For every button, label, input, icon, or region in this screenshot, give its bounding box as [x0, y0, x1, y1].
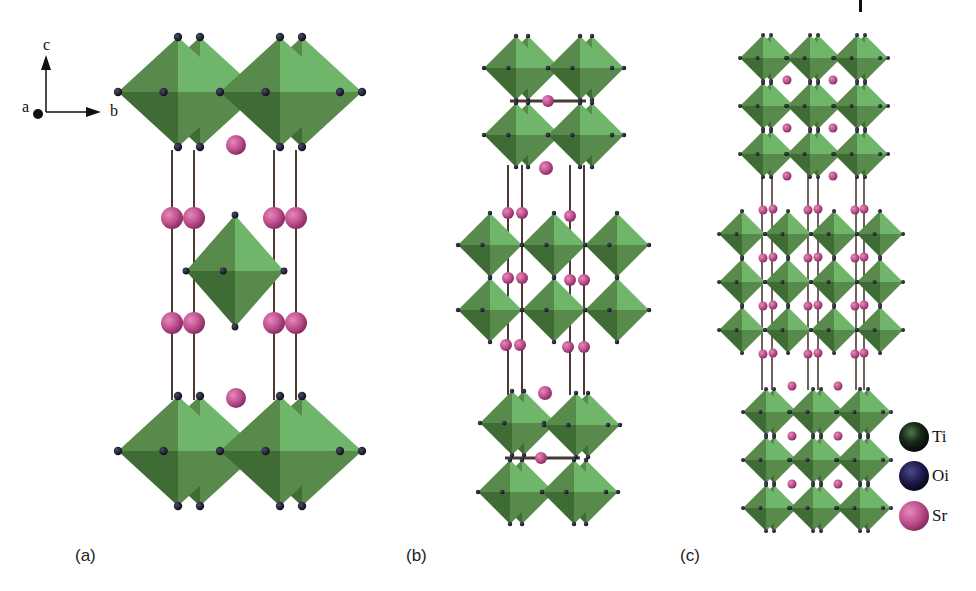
- oxygen-atom: [740, 305, 744, 309]
- sr-atom: [539, 161, 553, 175]
- sr-atom: [769, 301, 778, 310]
- oxygen-atom: [785, 104, 789, 108]
- oxygen-atom: [816, 33, 820, 37]
- tio6-octahedron: [456, 211, 524, 279]
- oxygen-atom: [174, 33, 182, 41]
- oxygen-atom: [780, 328, 784, 332]
- sr-atom: [783, 172, 792, 181]
- oxygen-atom: [758, 410, 762, 414]
- oxygen-atom: [763, 232, 767, 236]
- sr-atom: [829, 172, 838, 181]
- oxygen-atom: [216, 447, 224, 455]
- oxygen-atom: [863, 129, 867, 133]
- c-axis-arrowhead-icon: [41, 55, 51, 70]
- oxygen-atom: [855, 33, 859, 37]
- oxygen-atom: [544, 308, 548, 312]
- sr-atom: [829, 76, 838, 85]
- oxygen-atom: [808, 175, 812, 179]
- oxygen-atom: [358, 447, 366, 455]
- oxygen-atom: [734, 280, 738, 284]
- tio6-octahedron-front: [835, 387, 885, 437]
- oxygen-atom: [183, 268, 190, 275]
- sr-atom: [814, 301, 823, 310]
- tio6-octahedron-front: [835, 435, 885, 485]
- oxygen-atom: [488, 340, 492, 344]
- oxygen-atom: [741, 458, 745, 462]
- oxygen-atom: [769, 129, 773, 133]
- oxygen-atom: [174, 143, 182, 151]
- oxygen-atom: [336, 447, 344, 455]
- oxygen-atom: [872, 280, 876, 284]
- sr-atom: [183, 207, 205, 229]
- oxygen-atom: [849, 104, 853, 108]
- tio6-octahedron: [763, 305, 813, 355]
- oxygen-atom: [480, 243, 484, 247]
- tio6-octahedron: [809, 209, 859, 259]
- tio6-octahedron-front: [832, 33, 882, 83]
- tio6-octahedron: [809, 257, 859, 307]
- oxygen-atom: [114, 88, 122, 96]
- oxygen-atom: [763, 280, 767, 284]
- oxygen-atom: [578, 101, 582, 105]
- panel-a-structure: [114, 33, 366, 510]
- oxygen-atom: [717, 232, 721, 236]
- oxygen-atom: [298, 392, 306, 400]
- oxygen-atom: [786, 257, 790, 261]
- oxygen-atom: [546, 133, 550, 137]
- sr-atom: [851, 302, 860, 311]
- tio6-octahedron-front: [216, 33, 344, 151]
- oxygen-atom: [520, 308, 524, 312]
- oxygen-atom: [780, 232, 784, 236]
- tio6-octahedron-front: [482, 101, 550, 169]
- legend-label-oi: Oi: [932, 466, 949, 486]
- oxygen-atom: [540, 490, 544, 494]
- tio6-octahedron: [763, 209, 813, 259]
- oxygen-atom: [298, 143, 306, 151]
- legend-swatches: [899, 422, 929, 531]
- sr-atom: [500, 339, 512, 351]
- oxygen-atom: [889, 506, 893, 510]
- oxygen-atom: [570, 66, 574, 70]
- tio6-octahedron-front: [738, 81, 788, 131]
- sr-atom: [804, 302, 813, 311]
- oxygen-atom: [832, 56, 836, 60]
- oxygen-atom: [811, 387, 815, 391]
- tio6-octahedron-front: [835, 483, 885, 533]
- oxygen-atom: [889, 458, 893, 462]
- sr-atom: [759, 302, 768, 311]
- oxygen-atom: [216, 88, 224, 96]
- oxygen-atom: [616, 490, 620, 494]
- oxygen-atom: [901, 232, 905, 236]
- oxygen-atom: [740, 209, 744, 213]
- oxygen-atom: [564, 490, 568, 494]
- tio6-octahedron-front: [738, 33, 788, 83]
- tio6-octahedron: [717, 257, 767, 307]
- oxygen-atom: [738, 152, 742, 156]
- oxygen-atom: [855, 232, 859, 236]
- sr-atom: [285, 312, 307, 334]
- sr-atom: [788, 382, 797, 391]
- oxygen-atom: [835, 458, 839, 462]
- oxygen-atom: [863, 81, 867, 85]
- tio6-octahedron-front: [788, 435, 838, 485]
- oxygen-atom: [826, 328, 830, 332]
- oxygen-atom: [159, 88, 167, 96]
- oxygen-atom: [510, 389, 514, 393]
- oxygen-atom: [772, 529, 776, 533]
- oxygen-atom: [506, 66, 510, 70]
- oxygen-atom: [809, 232, 813, 236]
- oxygen-atom: [863, 175, 867, 179]
- sr-atom: [535, 452, 547, 464]
- sr-atom: [834, 382, 843, 391]
- oxygen-atom: [717, 280, 721, 284]
- oxygen-atom: [526, 165, 530, 169]
- tio6-octahedron-front: [478, 389, 546, 457]
- panel-b-structure: [456, 34, 651, 526]
- sr-atom: [804, 254, 813, 263]
- oxygen-atom: [196, 392, 204, 400]
- oxygen-atom: [901, 328, 905, 332]
- oxygen-atom: [552, 340, 556, 344]
- sr-atom: [814, 349, 823, 358]
- oxygen-atom: [734, 232, 738, 236]
- oxygen-atom: [878, 257, 882, 261]
